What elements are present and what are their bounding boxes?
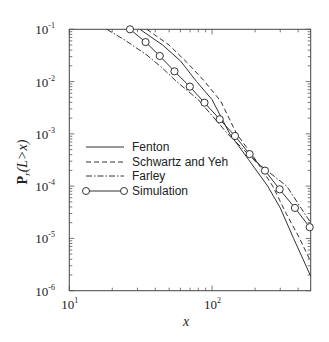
data-point-marker	[306, 224, 313, 231]
data-point-marker	[261, 167, 268, 174]
y-axis-title-rest: (L>x)	[15, 139, 31, 172]
y-tick-label: 10-6	[35, 283, 55, 299]
data-point-marker	[142, 38, 149, 45]
y-tick-label: 10-5	[35, 230, 55, 246]
legend-marker-icon	[83, 188, 90, 195]
x-axis-title: x	[182, 314, 190, 329]
data-point-marker	[231, 132, 238, 139]
data-point-marker	[186, 83, 193, 90]
data-point-marker	[216, 116, 223, 123]
data-point-marker	[291, 204, 298, 211]
legend-label-schwartz: Schwartz and Yeh	[132, 155, 228, 169]
x-tick-label: 101	[61, 296, 78, 312]
y-axis-title: Pr(L>x)	[15, 139, 32, 184]
x-tick-label: 102	[204, 296, 221, 312]
legend-label-fenton: Fenton	[132, 140, 169, 154]
legend-label-simulation: Simulation	[132, 184, 188, 198]
data-point-marker	[126, 26, 133, 33]
y-tick-label: 10-2	[35, 74, 55, 90]
legend-label-farley: Farley	[132, 169, 165, 183]
data-point-marker	[201, 99, 208, 106]
y-tick-label: 10-1	[35, 21, 55, 37]
chart: 10110210-110-210-310-410-510-6 Fenton Sc…	[0, 0, 329, 342]
y-tick-label: 10-3	[35, 126, 55, 142]
svg-text:Pr(L>x): Pr(L>x)	[15, 139, 32, 184]
legend: Fenton Schwartz and Yeh Farley Simulatio…	[83, 140, 229, 198]
y-tick-label: 10-4	[35, 178, 55, 194]
series-schwartz-and-yeh	[147, 29, 311, 261]
legend-marker-icon	[121, 188, 128, 195]
data-point-marker	[276, 186, 283, 193]
data-point-marker	[156, 52, 163, 59]
data-point-marker	[246, 151, 253, 158]
data-point-marker	[171, 68, 178, 75]
